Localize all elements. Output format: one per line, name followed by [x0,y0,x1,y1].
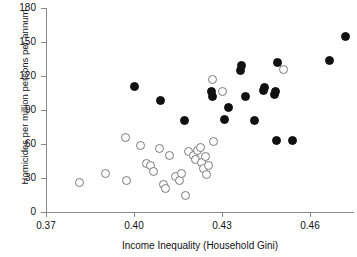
x-tick-label: 0.40 [114,221,154,231]
data-point-open [208,75,217,84]
data-point-filled [156,96,165,105]
data-point-filled [341,32,350,41]
data-point-filled [250,116,259,125]
y-axis-title: Homicides per million persons per annum [20,2,30,192]
data-point-filled [180,116,189,125]
data-point-open [202,170,211,179]
y-tick [41,76,46,77]
y-tick-label: 0 [0,207,36,217]
y-tick-label: 60 [0,139,36,149]
x-tick [134,212,135,217]
data-point-open [122,176,131,185]
data-point-open [161,184,170,193]
y-tick-label: 90 [0,105,36,115]
data-point-filled [272,136,281,145]
data-point-filled [208,92,217,101]
x-axis-line [46,212,354,213]
x-axis-title: Income Inequality (Household Gini) [46,240,354,251]
data-point-open [136,141,145,150]
data-point-filled [273,58,282,67]
data-point-filled [325,56,334,65]
x-tick-label: 0.37 [26,221,66,231]
x-tick-label: 0.43 [202,221,242,231]
x-tick-label: 0.46 [290,221,330,231]
y-tick [41,178,46,179]
x-tick [310,212,311,217]
data-point-open [155,144,164,153]
y-tick [41,8,46,9]
data-point-open [201,152,210,161]
x-tick [46,212,47,217]
data-point-filled [220,115,229,124]
data-point-filled [241,92,250,101]
y-tick-label: 180 [0,3,36,13]
y-axis-line [46,8,47,213]
data-point-filled [130,82,139,91]
data-point-filled [237,61,246,70]
y-tick-label: 150 [0,37,36,47]
data-point-open [177,169,186,178]
scatter-chart: 0306090120150180 0.370.400.430.46 Homici… [0,0,357,257]
data-point-open [149,167,158,176]
data-point-filled [288,136,297,145]
y-tick-label: 120 [0,71,36,81]
x-tick [222,212,223,217]
y-tick [41,144,46,145]
data-point-open [75,178,84,187]
data-point-open [165,151,174,160]
data-point-filled [224,103,233,112]
data-point-open [196,143,205,152]
data-point-open [121,133,130,142]
data-point-open [181,191,190,200]
data-point-open [204,161,213,170]
data-point-open [101,169,110,178]
y-tick [41,42,46,43]
data-point-open [279,65,288,74]
y-tick-label: 30 [0,173,36,183]
data-point-open [209,137,218,146]
plot-area [0,0,357,257]
y-tick [41,110,46,111]
data-point-open [218,87,227,96]
